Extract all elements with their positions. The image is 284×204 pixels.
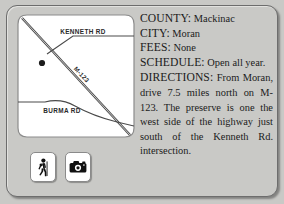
field-fees-value: None <box>173 42 196 53</box>
location-map[interactable]: KENNETH RD BURMA RD M-123 <box>17 14 135 138</box>
field-city: CITY: Moran <box>140 27 273 42</box>
camera-icon <box>69 160 87 174</box>
field-directions-value: From Moran, drive 7.5 miles north on M-1… <box>140 72 273 156</box>
field-fees: FEES: None <box>140 41 273 56</box>
amenity-hiking-button[interactable] <box>30 152 56 182</box>
field-county: COUNTY: Mackinac <box>140 12 273 27</box>
field-city-label: CITY: <box>140 27 170 40</box>
field-city-value: Moran <box>172 28 200 39</box>
field-directions-label: DIRECTIONS: <box>140 71 213 84</box>
preserve-info-card: KENNETH RD BURMA RD M-123 <box>0 0 284 204</box>
field-directions: DIRECTIONS: From Moran, drive 7.5 miles … <box>140 71 273 159</box>
field-county-value: Mackinac <box>194 13 235 24</box>
preserve-details: COUNTY: Mackinac CITY: Moran FEES: None … <box>140 12 273 192</box>
amenity-photography-button[interactable] <box>65 152 91 182</box>
amenity-icons <box>30 152 91 182</box>
field-schedule: SCHEDULE: Open all year. <box>140 56 273 71</box>
field-fees-label: FEES: <box>140 41 171 54</box>
road-label-burma: BURMA RD <box>43 107 80 114</box>
preserve-marker[interactable] <box>39 60 45 66</box>
road-label-kenneth: KENNETH RD <box>60 28 105 35</box>
hiker-icon <box>35 158 51 177</box>
field-county-label: COUNTY: <box>140 12 191 25</box>
map-svg: KENNETH RD BURMA RD M-123 <box>17 14 135 138</box>
field-schedule-label: SCHEDULE: <box>140 56 205 69</box>
field-schedule-value: Open all year. <box>207 57 265 68</box>
